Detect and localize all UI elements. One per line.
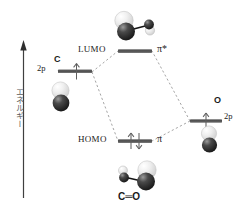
corr-o2p-lumo [152,51,190,121]
energy-axis-arrowhead [20,40,26,51]
pi-star-label: π* [157,44,167,54]
energy-axis-label: エネルギー [14,88,22,128]
pi-label: π [157,134,162,144]
pi-antibonding-lobe-small-dark [144,20,154,30]
homo-level-bar [118,139,152,143]
carbon-2p-level [58,64,92,80]
lumo-level-bar [118,49,152,53]
pi-antibonding-orbital-picture [115,11,155,40]
carbon-2p-level-bar [58,70,92,73]
pi-bonding-lobe-small-dark [119,173,129,183]
oxygen-p-orbital-picture [201,126,217,153]
pi-bonding-lobe-large-dark [137,173,155,191]
mo-diagram-svg [0,0,247,223]
molecule-label: C═O [118,192,140,202]
corr-c2p-lumo [92,51,118,72]
homo-label: HOMO [78,135,107,144]
carbon-p-lobe-dark [53,95,70,112]
carbon-2p-label: 2p [37,64,46,73]
carbon-p-orbital-picture [52,82,69,111]
homo-level [118,133,152,149]
oxygen-p-lobe-dark [202,137,217,152]
carbon-atom-label: C [54,55,61,64]
correlation-lines [92,51,190,141]
corr-c2p-homo [92,72,118,141]
pi-antibonding-lobe-large-dark [117,23,135,41]
mo-diagram-canvas: LUMO HOMO π* π C O 2p 2p C═O エネルギー [0,0,247,223]
oxygen-2p-label: 2p [224,112,233,121]
oxygen-atom-label: O [214,96,221,105]
lumo-label: LUMO [78,45,106,54]
lumo-level [118,49,152,53]
pi-bonding-orbital-picture [119,161,157,191]
